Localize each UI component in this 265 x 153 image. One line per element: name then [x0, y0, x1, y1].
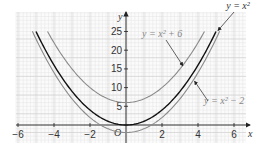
parabola-chart: xyO−6−4−2246510152025y = x²y = x² + 6y =…: [0, 0, 265, 153]
x-tick-label: −6: [12, 129, 24, 140]
label-y-equals-x2-minus-2: y = x² − 2: [203, 95, 244, 106]
x-tick-label: 2: [159, 129, 165, 140]
x-tick-label: −4: [48, 129, 60, 140]
y-axis-label: y: [117, 11, 123, 22]
x-axis-label: x: [247, 128, 253, 139]
x-tick-label: −2: [84, 129, 96, 140]
label-y-equals-x2: y = x²: [225, 0, 251, 11]
y-tick-label: 10: [111, 82, 123, 93]
y-tick-label: 25: [111, 26, 123, 37]
x-tick-label: 6: [231, 129, 237, 140]
y-tick-label: 15: [111, 63, 123, 74]
y-tick-label: 20: [111, 45, 123, 56]
label-y-equals-x2-plus-6: y = x² + 6: [141, 28, 182, 39]
x-tick-label: 4: [195, 129, 201, 140]
